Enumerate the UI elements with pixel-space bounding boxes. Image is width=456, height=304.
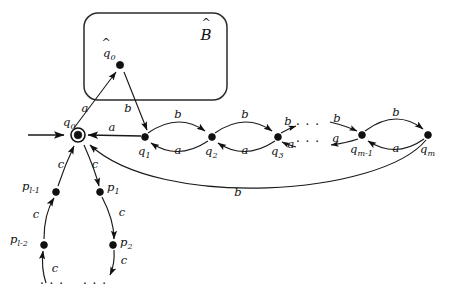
b-hat-box-label: ^ B: [199, 16, 211, 44]
edge-label-pl1-to-q0: c: [58, 157, 65, 171]
edge-label-qm1-to-ellipsis: a: [333, 131, 340, 145]
edge-label-q1-to-q2: b: [174, 107, 181, 121]
edge-label-cycle-to-pl2: c: [52, 261, 59, 275]
state-q3-dot[interactable]: [275, 134, 282, 141]
b-hat-letter: B: [199, 26, 211, 44]
cycle-ellipsis-left: · · ·: [40, 277, 64, 291]
state-p1-dot[interactable]: [97, 189, 104, 196]
edge-label-q2-to-q1: a: [175, 143, 182, 157]
state-q-hat-0-label: q0: [103, 46, 115, 62]
state-pl1-label: pl-1: [22, 179, 40, 195]
edge-q1-to-q2: [148, 122, 205, 133]
state-pl1-dot[interactable]: [53, 189, 60, 196]
state-q-hat-0[interactable]: ^ q0: [101, 36, 123, 69]
state-q0-inner-dot[interactable]: [74, 131, 82, 139]
edge-label-q0-to-qhat0: a: [82, 101, 89, 115]
chain-ellipsis-upper: · · ·: [296, 118, 320, 132]
chain-ellipsis-lower: · · ·: [296, 135, 320, 149]
edge-label-q1-to-q0: a: [109, 120, 116, 134]
state-q2-label: q2: [205, 144, 217, 160]
state-q0[interactable]: q0: [63, 115, 85, 142]
state-p1-label: p1: [107, 180, 119, 196]
state-qm-dot[interactable]: [425, 132, 432, 139]
edge-label-q3-to-q2: a: [242, 143, 249, 157]
automaton-svg: ^ B a b a b a b a b a b a b a b c c c c …: [0, 0, 456, 304]
edge-p2-to-cycle: [110, 250, 114, 275]
state-q-hat-0-dot[interactable]: [116, 61, 123, 68]
edge-label-qm-to-qm1: a: [393, 141, 400, 155]
state-qm-label: qm: [420, 142, 435, 158]
edge-label-p2-to-cycle: c: [121, 253, 128, 267]
state-qm1-dot[interactable]: [359, 132, 366, 139]
state-q1-label: q1: [138, 144, 150, 160]
state-q3[interactable]: q3: [271, 134, 283, 160]
edge-label-qm-to-q0: b: [234, 185, 241, 199]
state-q0-label: q0: [63, 115, 75, 131]
edge-qm1-to-qm: [365, 119, 423, 131]
state-pl1[interactable]: pl-1: [22, 179, 59, 195]
state-q2-dot[interactable]: [209, 134, 216, 141]
edge-label-ellipsis-to-qm1: b: [333, 111, 340, 125]
edge-q1-to-q0: [88, 135, 141, 136]
state-p2-label: p2: [120, 235, 132, 251]
state-q3-label: q3: [271, 144, 283, 160]
state-pl2-label: pl-2: [10, 232, 28, 248]
state-q2[interactable]: q2: [205, 134, 217, 160]
state-pl2-dot[interactable]: [41, 242, 48, 249]
edge-label-qhat0-to-q1: b: [124, 101, 131, 115]
automaton-diagram: ^ B a b a b a b a b a b a b a b c c c c …: [0, 0, 456, 304]
edge-label-pl2-to-pl1: c: [33, 207, 40, 221]
state-q1-dot[interactable]: [142, 134, 149, 141]
state-p2[interactable]: p2: [110, 235, 133, 251]
cycle-ellipsis-right: · · ·: [83, 277, 107, 291]
edge-label-p1-to-p2: c: [119, 205, 126, 219]
edge-label-q2-to-q3: b: [241, 107, 248, 121]
edge-p1-to-p2: [102, 197, 114, 239]
edge-label-q3-to-ellipsis: b: [284, 114, 291, 128]
edge-label-ellipsis-to-q3: a: [288, 137, 295, 151]
state-p1[interactable]: p1: [97, 180, 120, 196]
state-qm[interactable]: qm: [420, 132, 435, 158]
edge-q2-to-q3: [215, 122, 272, 133]
state-p2-dot[interactable]: [110, 242, 117, 249]
edge-label-qm1-to-qm: b: [392, 105, 399, 119]
state-qm1-label: qm-1: [350, 142, 373, 158]
state-pl2[interactable]: pl-2: [10, 232, 47, 248]
state-qm1[interactable]: qm-1: [350, 132, 373, 158]
edge-pl2-to-pl1: [44, 198, 54, 239]
state-q1[interactable]: q1: [138, 134, 150, 160]
edge-label-q0-to-p1: c: [92, 157, 99, 171]
